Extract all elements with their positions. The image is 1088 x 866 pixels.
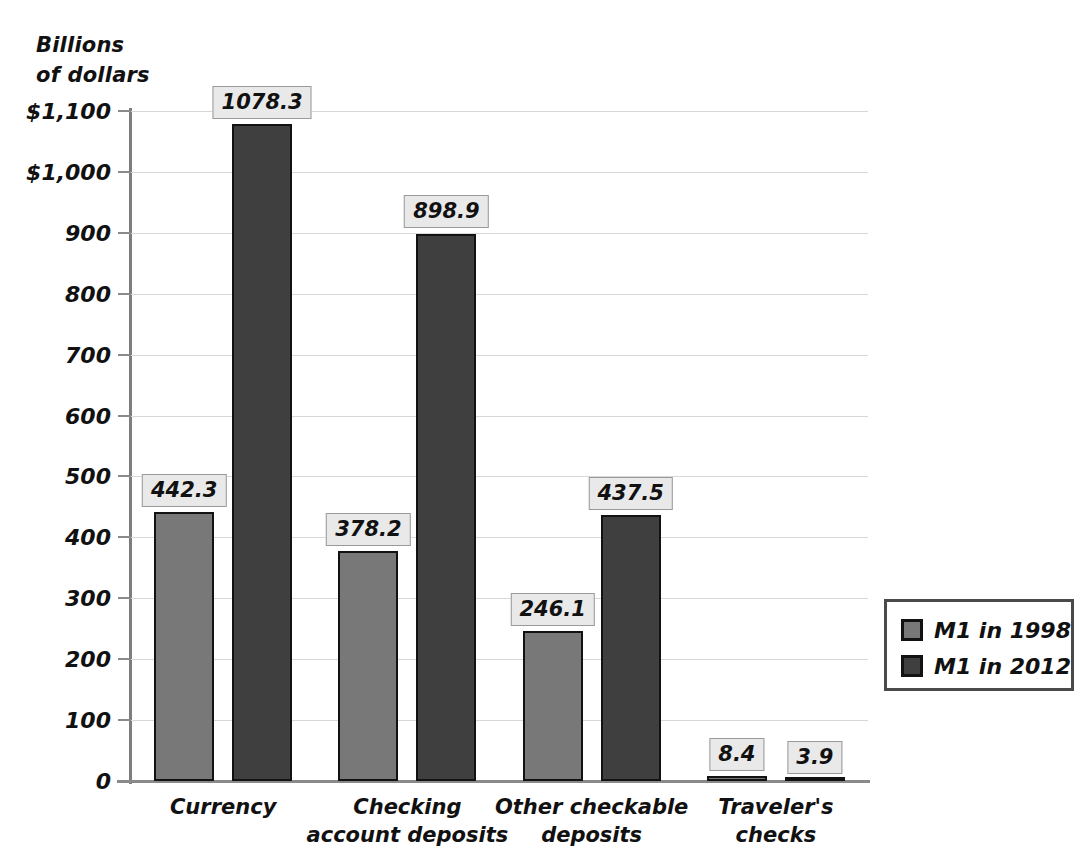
bar-0-0[interactable] xyxy=(154,512,214,781)
y-axis-tick-label: 300 xyxy=(65,586,111,611)
bar-value-label: 898.9 xyxy=(404,195,488,228)
y-axis-tick-label: 100 xyxy=(65,708,111,733)
y-axis-tick xyxy=(118,110,131,112)
bar-value-label: 437.5 xyxy=(588,477,672,510)
y-axis-tick-label: 900 xyxy=(65,220,111,245)
legend-item-1[interactable]: M1 in 2012 xyxy=(901,648,1071,684)
y-axis-tick xyxy=(118,597,131,599)
legend-label-0: M1 in 1998 xyxy=(934,618,1071,643)
y-axis-tick-label: $1,100 xyxy=(26,99,111,124)
y-axis-tick xyxy=(118,171,131,173)
bar-value-label: 3.9 xyxy=(787,741,842,774)
bar-value-label: 378.2 xyxy=(326,513,410,546)
y-axis-line xyxy=(129,108,132,784)
bar-value-label: 1078.3 xyxy=(213,86,312,119)
bar-1-2[interactable] xyxy=(601,515,661,781)
y-axis-tick xyxy=(118,415,131,417)
y-axis-tick-label: 0 xyxy=(96,769,111,794)
legend-swatch-icon-1 xyxy=(901,655,923,677)
bar-value-label: 246.1 xyxy=(510,593,594,626)
y-axis-tick xyxy=(118,232,131,234)
bar-1-3[interactable] xyxy=(785,777,845,781)
y-axis-tick xyxy=(118,536,131,538)
y-axis-tick-label: 200 xyxy=(65,647,111,672)
bar-0-3[interactable] xyxy=(707,776,767,781)
y-axis-tick-label: $1,000 xyxy=(26,159,111,184)
y-axis-title: Billions of dollars xyxy=(36,30,150,90)
x-axis-category-label: Traveler's checks xyxy=(718,793,833,849)
y-axis-tick-label: 400 xyxy=(65,525,111,550)
x-axis-category-label: Checking account deposits xyxy=(307,793,509,849)
chart-legend: M1 in 1998 M1 in 2012 xyxy=(884,599,1074,691)
y-axis-tick xyxy=(118,475,131,477)
bar-0-2[interactable] xyxy=(523,631,583,781)
legend-item-0[interactable]: M1 in 1998 xyxy=(901,612,1071,648)
x-axis-category-label: Other checkable deposits xyxy=(495,793,688,849)
y-axis-tick xyxy=(118,354,131,356)
y-axis-tick xyxy=(118,719,131,721)
y-axis-tick xyxy=(118,780,131,782)
bar-1-1[interactable] xyxy=(416,234,476,782)
bar-1-0[interactable] xyxy=(232,124,292,781)
y-axis-tick xyxy=(118,293,131,295)
legend-swatch-icon-0 xyxy=(901,619,923,641)
legend-label-1: M1 in 2012 xyxy=(934,654,1071,679)
y-axis-tick-label: 700 xyxy=(65,342,111,367)
y-axis-tick-label: 500 xyxy=(65,464,111,489)
y-axis-tick-label: 800 xyxy=(65,281,111,306)
bar-value-label: 442.3 xyxy=(142,474,226,507)
bar-0-1[interactable] xyxy=(338,551,398,781)
x-axis-category-label: Currency xyxy=(170,793,276,821)
y-axis-tick xyxy=(118,658,131,660)
y-axis-tick-label: 600 xyxy=(65,403,111,428)
chart-canvas: Billions of dollars $1,100$1,00090080070… xyxy=(0,0,1088,866)
bar-value-label: 8.4 xyxy=(709,738,764,771)
plot-area: $1,100$1,0009008007006005004003002001000… xyxy=(131,111,868,781)
